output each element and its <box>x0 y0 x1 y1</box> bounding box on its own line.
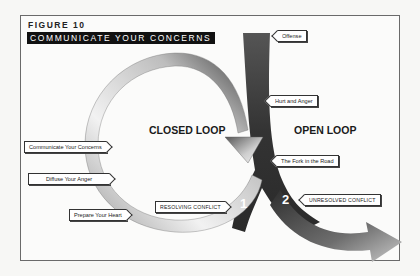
closed-loop-label: CLOSED LOOP <box>149 124 225 136</box>
open-loop-label: OPEN LOOP <box>294 124 356 136</box>
fork-in-the-road-tag: The Fork in the Road <box>276 155 339 167</box>
diffuse-your-anger-tag: Diffuse Your Anger <box>28 173 110 185</box>
prepare-your-heart-tag: Prepare Your Heart <box>69 209 127 221</box>
branch-number-1: 1 <box>240 196 247 211</box>
unresolved-conflict-tag: UNRESOLVED CONFLICT <box>304 194 381 206</box>
hurt-and-anger-tag: Hurt and Anger <box>270 95 318 107</box>
resolving-conflict-tag: RESOLVING CONFLICT <box>155 201 226 213</box>
communicate-your-concerns-tag: Communicate Your Concerns <box>24 141 107 153</box>
conflict-loop-diagram <box>0 0 420 276</box>
offense-tag: Offense <box>277 30 307 42</box>
branch-number-2: 2 <box>282 192 289 207</box>
